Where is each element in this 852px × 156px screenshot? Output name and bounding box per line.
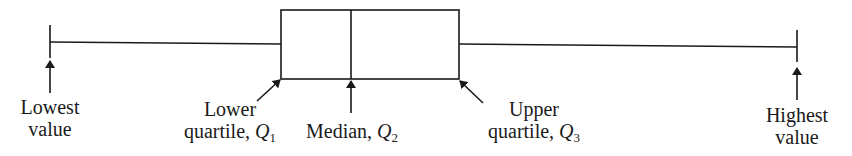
- lower-whisker: [50, 42, 281, 44]
- upper-quartile-line1: Upper: [488, 98, 580, 120]
- q-subscript: 3: [574, 130, 581, 145]
- median-label: Median, Q2: [306, 120, 398, 149]
- q-symbol: Q: [559, 120, 573, 142]
- upper-whisker: [459, 44, 797, 47]
- upper-quartile-line2: quartile, Q3: [488, 120, 580, 149]
- highest-label-line1: Highest: [766, 104, 828, 126]
- upper-quartile-text: quartile,: [488, 120, 559, 142]
- highest-value-label: Highest value: [766, 104, 828, 148]
- q-subscript: 2: [392, 130, 399, 145]
- lower-quartile-label: Lower quartile, Q1: [184, 98, 276, 149]
- lowest-label-line2: value: [21, 118, 80, 140]
- box-plot-graphic: [0, 0, 852, 156]
- box-plot-diagram: Lowest value Lower quartile, Q1 Median, …: [0, 0, 852, 156]
- median-text: Median,: [306, 120, 377, 142]
- q-symbol: Q: [377, 120, 391, 142]
- q-subscript: 1: [270, 130, 277, 145]
- upper-quartile-arrow-icon: [460, 81, 483, 103]
- interquartile-box: [281, 10, 459, 79]
- lower-quartile-line2: quartile, Q1: [184, 120, 276, 149]
- highest-label-line2: value: [766, 126, 828, 148]
- lower-quartile-line1: Lower: [184, 98, 276, 120]
- q-symbol: Q: [255, 120, 269, 142]
- lower-quartile-text: quartile,: [184, 120, 255, 142]
- upper-quartile-label: Upper quartile, Q3: [488, 98, 580, 149]
- lowest-label-line1: Lowest: [21, 96, 80, 118]
- lowest-value-label: Lowest value: [21, 96, 80, 140]
